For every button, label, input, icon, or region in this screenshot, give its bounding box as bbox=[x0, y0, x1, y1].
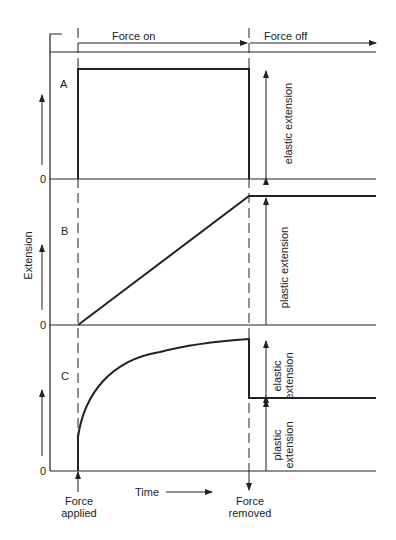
top-bracket bbox=[50, 34, 62, 52]
elastic-extension-label-a: elastic extension bbox=[283, 74, 294, 174]
force-applied-line1: Force bbox=[56, 495, 102, 507]
time-label: Time bbox=[135, 486, 159, 498]
zero-label-a: 0 bbox=[40, 173, 46, 185]
elastic-label-line2: extension bbox=[283, 350, 295, 402]
elastic-label-line1: elastic bbox=[271, 350, 283, 402]
elastic-extension-label-c: elastic extension bbox=[271, 350, 297, 402]
plastic-label-line1: plastic bbox=[271, 419, 283, 471]
force-applied-label: Force applied bbox=[56, 495, 102, 519]
curve-b bbox=[78, 196, 376, 325]
force-removed-line1: Force bbox=[224, 495, 276, 507]
y-axis-label: Extension bbox=[23, 224, 34, 288]
force-removed-label: Force removed bbox=[224, 495, 276, 519]
zero-label-b: 0 bbox=[40, 319, 46, 331]
panel-label-c: C bbox=[61, 370, 69, 382]
plastic-label-line2: extension bbox=[283, 419, 295, 471]
force-applied-line2: applied bbox=[56, 507, 102, 519]
force-on-label: Force on bbox=[112, 30, 155, 42]
zero-label-c: 0 bbox=[40, 465, 46, 477]
plastic-extension-label-c: plastic extension bbox=[271, 419, 297, 471]
curve-a bbox=[78, 69, 249, 179]
force-off-label: Force off bbox=[264, 30, 307, 42]
force-removed-line2: removed bbox=[224, 507, 276, 519]
plastic-extension-label-b: plastic extension bbox=[279, 218, 290, 318]
panel-label-a: A bbox=[60, 78, 67, 90]
panel-label-b: B bbox=[61, 225, 68, 237]
curve-c bbox=[78, 339, 376, 471]
